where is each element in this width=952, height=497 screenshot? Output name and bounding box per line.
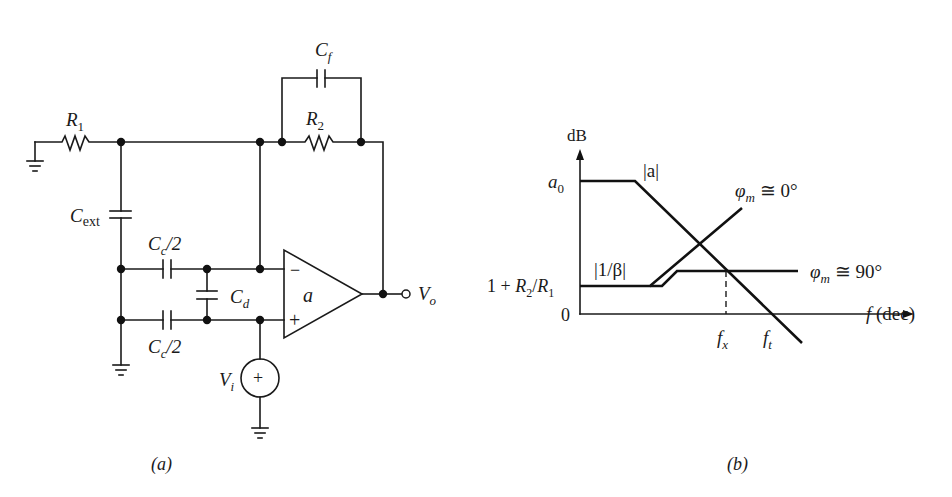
label-vi: Vi xyxy=(219,369,235,394)
ground-icon xyxy=(27,161,43,171)
label-cf: Cf xyxy=(315,39,334,64)
caption-a: (a) xyxy=(151,454,172,475)
label-cc-bottom: Cc/2 xyxy=(148,336,182,361)
y-tick-a0: a0 xyxy=(548,171,564,196)
op-amp-gain-label: a xyxy=(303,284,313,306)
x-tick-ft: ft xyxy=(763,327,772,352)
op-amp-noninverting-sign: + xyxy=(289,309,300,331)
label-vo: Vo xyxy=(418,283,437,308)
series-inv-beta-phi90 xyxy=(650,271,798,286)
op-amp-inverting-sign: − xyxy=(290,260,300,280)
label-phi90: φm ≅ 90° xyxy=(810,261,882,286)
ground-icon xyxy=(252,428,268,438)
label-cc-top: Cc/2 xyxy=(148,233,182,258)
wire-feedback xyxy=(361,142,383,294)
resistor-r2 xyxy=(282,136,361,150)
output-terminal-icon xyxy=(402,290,410,298)
x-tick-fx: fx xyxy=(717,327,728,352)
label-r1: R1 xyxy=(65,109,84,134)
figure: R1 R2 Cf Cext xyxy=(0,0,952,497)
label-mag-a: |a| xyxy=(643,160,659,181)
vi-polarity-sign: + xyxy=(253,368,263,388)
caption-b: (b) xyxy=(727,454,748,475)
capacitor-cd xyxy=(197,269,217,320)
y-axis-arrow-icon xyxy=(576,149,584,160)
label-cd: Cd xyxy=(230,286,250,311)
resistor-r1 xyxy=(35,136,121,161)
label-phi0: φm ≅ 0° xyxy=(735,180,798,205)
circuit-schematic: R1 R2 Cf Cext xyxy=(27,39,437,475)
label-inv-beta: |1/β| xyxy=(594,259,626,280)
ground-icon xyxy=(113,365,129,375)
y-tick-noise-gain: 1 + R2/R1 xyxy=(487,276,554,300)
junction-dots xyxy=(117,138,387,324)
bode-plot: dB |a| φm ≅ 0° φm ≅ 90° |1/β| a0 1 + R2/… xyxy=(487,126,915,475)
label-r2: R2 xyxy=(305,108,324,133)
y-axis-label: dB xyxy=(567,126,587,145)
capacitor-cext xyxy=(110,142,131,320)
label-cext: Cext xyxy=(70,205,100,229)
y-tick-zero: 0 xyxy=(561,305,570,325)
x-axis-label: f (dec) xyxy=(866,303,915,325)
